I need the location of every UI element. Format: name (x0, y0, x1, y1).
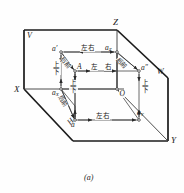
dot-O (116, 88, 119, 91)
point-label-ay: aY (137, 109, 144, 117)
plane-label-w: W (157, 68, 164, 76)
point-label-A: A (77, 63, 82, 71)
label-up-down-right: 上 下 (141, 80, 150, 93)
point-label-a-double-prime: a″ (141, 64, 148, 72)
point-label-a-prime: a′ (52, 45, 57, 53)
plane-label-v: V (27, 32, 32, 40)
dot-A (74, 70, 77, 73)
dot-ay (138, 119, 141, 122)
point-label-az-sub: Z (109, 47, 112, 52)
point-label-az: aZ (105, 44, 112, 52)
label-right-middle: 右 (104, 64, 112, 71)
figure-caption: (a) (84, 173, 93, 182)
projection-system-drawing (0, 0, 184, 193)
axis-label-z: Z (113, 18, 118, 27)
point-label-ay-sub: Y (141, 112, 144, 117)
label-down-center: 下 (70, 87, 78, 94)
label-up-down-left: 上 下 (52, 62, 61, 75)
label-down-right: 下 (142, 87, 150, 94)
label-left-right-bottom: 左右 (95, 113, 110, 120)
figure-canvas: V H W Z X Y O a′ A a a″ aX aY aZ 左右 左 右 … (0, 0, 184, 193)
label-left-right-top: 左右 (80, 45, 95, 52)
label-left-middle: 左 (90, 64, 98, 71)
point-label-a: a (71, 121, 75, 129)
label-down-left: 下 (53, 69, 61, 76)
dot-a-double-prime (138, 70, 141, 73)
label-up-down-center: 上 下 (69, 80, 78, 93)
axis-label-x: X (14, 85, 20, 94)
origin-label-o: O (119, 90, 125, 98)
axis-label-y: Y (171, 136, 176, 145)
dot-a-prime (60, 51, 63, 54)
dot-az (116, 51, 119, 54)
dot-ax (60, 88, 63, 91)
